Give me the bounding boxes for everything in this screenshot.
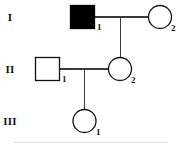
individual-symbol-I-1 [71, 6, 95, 29]
pedigree-chart-figure: I II III 1 2 1 2 1 [0, 0, 182, 144]
individual-symbol-II-2 [109, 58, 132, 81]
individual-symbol-II-1 [36, 58, 60, 81]
individual-number-II-1: 1 [62, 74, 67, 84]
individual-symbol-I-2 [149, 6, 172, 29]
individual-number-III-1: 1 [96, 127, 101, 137]
individual-number-I-1: 1 [97, 22, 102, 32]
generation-label-2: II [5, 63, 14, 75]
generation-label-3: III [3, 115, 17, 127]
generation-label-1: I [8, 11, 13, 23]
individual-number-II-2: 2 [131, 75, 136, 85]
individual-number-I-2: 2 [171, 23, 176, 33]
individual-symbol-III-1 [73, 110, 96, 133]
pedigree-diagram: I II III 1 2 1 2 1 [0, 0, 182, 144]
